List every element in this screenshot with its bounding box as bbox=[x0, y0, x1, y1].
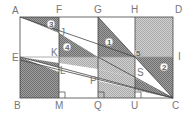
label-c: C bbox=[172, 100, 179, 111]
label-e: E bbox=[12, 52, 19, 63]
label-k: K bbox=[51, 47, 58, 58]
region-number-1: 1 bbox=[107, 38, 112, 47]
label-a: A bbox=[12, 5, 19, 16]
label-m: M bbox=[55, 100, 63, 111]
label-s: S bbox=[137, 67, 144, 78]
label-q: Q bbox=[94, 100, 102, 111]
region-number-2: 2 bbox=[162, 63, 167, 72]
region-number-5: 5 bbox=[136, 49, 141, 58]
label-i: I bbox=[178, 51, 181, 62]
label-f: F bbox=[56, 4, 62, 15]
label-j: J bbox=[60, 27, 65, 38]
label-h: H bbox=[131, 4, 138, 15]
geometry-diagram: A F G H D E I J K L P S B M Q U C 3 4 1 … bbox=[0, 0, 193, 116]
label-u: U bbox=[131, 100, 138, 111]
region-number-4: 4 bbox=[65, 43, 70, 52]
region-number-3: 3 bbox=[49, 20, 54, 29]
label-d: D bbox=[175, 4, 182, 15]
label-p: P bbox=[90, 75, 97, 86]
label-l: L bbox=[60, 65, 66, 76]
label-b: B bbox=[14, 100, 21, 111]
label-g: G bbox=[94, 4, 102, 15]
